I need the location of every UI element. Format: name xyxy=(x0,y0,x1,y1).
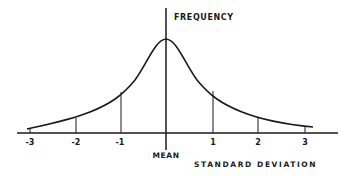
tick-label-neg2: -2 xyxy=(72,138,81,147)
mean-label: MEAN xyxy=(152,151,179,160)
tick-label-pos1: 1 xyxy=(210,138,216,147)
tick-label-neg1: -1 xyxy=(116,138,125,147)
x-axis-label: STANDARD DEVIATION xyxy=(194,160,317,169)
y-axis-label: FREQUENCY xyxy=(174,13,234,22)
normal-distribution-diagram: -3 -2 -1 1 2 3 FREQUENCY MEAN STANDARD D… xyxy=(0,0,351,176)
tick-label-pos2: 2 xyxy=(255,138,261,147)
bell-curve xyxy=(27,39,313,129)
tick-label-neg3: -3 xyxy=(26,138,35,147)
tick-label-pos3: 3 xyxy=(302,138,308,147)
